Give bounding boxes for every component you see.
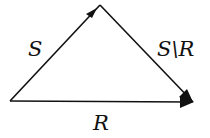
edge-r <box>10 101 190 102</box>
label-s: S <box>28 37 42 61</box>
vector-triangle-diagram: S S\R R <box>0 0 210 138</box>
label-r: R <box>92 111 109 135</box>
edge-s <box>10 5 100 101</box>
label-s-minus-r: S\R <box>157 37 194 61</box>
arrowhead-s-icon <box>86 8 97 18</box>
